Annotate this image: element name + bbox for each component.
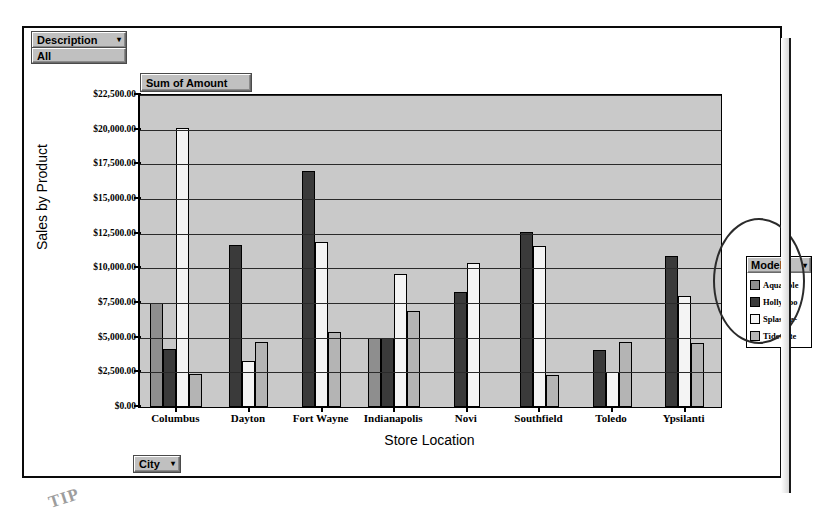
bar[interactable]	[189, 374, 202, 407]
bar[interactable]	[533, 246, 546, 407]
bar[interactable]	[619, 342, 632, 407]
legend-swatch-icon	[750, 280, 760, 290]
y-axis-tick-label: $22,500.00	[93, 89, 136, 99]
x-axis-tick-mark	[611, 406, 613, 412]
bar[interactable]	[229, 245, 242, 407]
bar-group	[140, 95, 213, 407]
x-axis-tick-mark	[466, 406, 468, 412]
x-axis-tick-mark	[321, 406, 323, 412]
gridline	[140, 199, 721, 200]
bar[interactable]	[328, 332, 341, 407]
x-axis-tick-label: Ypsilanti	[647, 412, 720, 424]
scan-artifact-text: TIP	[46, 475, 110, 512]
plot-wrapper: Sales by Product $22,500.00$20,000.00$17…	[24, 28, 780, 476]
plot-area	[139, 94, 722, 408]
bar-groups	[140, 95, 721, 407]
y-axis-tick-label: $17,500.00	[93, 158, 136, 168]
y-axis-tick-mark	[134, 370, 141, 372]
gridline	[140, 338, 721, 339]
bar[interactable]	[454, 292, 467, 407]
gridline	[140, 303, 721, 304]
gridline	[140, 95, 721, 96]
x-axis-tick-mark	[684, 406, 686, 412]
bar-group	[213, 95, 286, 407]
bar[interactable]	[546, 375, 559, 407]
page-edge-shadow	[781, 38, 789, 493]
legend-swatch-icon	[750, 314, 760, 324]
y-axis-tick-mark	[134, 128, 141, 130]
y-axis-tick-mark	[134, 301, 141, 303]
x-axis-tick-label: Indianapolis	[357, 412, 430, 424]
bar[interactable]	[315, 242, 328, 407]
legend-item[interactable]: Splash-a-	[750, 310, 809, 327]
y-axis-tick-mark	[134, 336, 141, 338]
x-axis-tick-label: Toledo	[575, 412, 648, 424]
x-axis-tick-label: Dayton	[212, 412, 285, 424]
legend-item-label: Tidewate	[763, 331, 796, 341]
legend-items: AquaSpleHollywooSplash-a-Tidewate	[747, 273, 811, 347]
y-axis-tick-mark	[134, 232, 141, 234]
y-axis-tick-labels: $22,500.00$20,000.00$17,500.00$15,000.00…	[24, 28, 136, 476]
bar[interactable]	[691, 343, 704, 407]
legend-field-model-button[interactable]: Model ▾	[747, 257, 811, 273]
legend-item[interactable]: AquaSple	[750, 276, 809, 293]
legend-item[interactable]: Tidewate	[750, 327, 809, 344]
y-axis-tick-label: $10,000.00	[93, 262, 136, 272]
y-axis-tick-label: $5,000.00	[98, 332, 136, 342]
x-axis-tick-mark	[248, 406, 250, 412]
x-axis-tick-mark	[393, 406, 395, 412]
bar-group	[358, 95, 431, 407]
y-axis-tick-mark	[134, 266, 141, 268]
pivot-chart-frame: Description ▾ All Sum of Amount Sales by…	[22, 26, 782, 478]
x-axis-tick-label: Fort Wayne	[284, 412, 357, 424]
gridline	[140, 268, 721, 269]
y-axis-tick-label: $2,500.00	[98, 366, 136, 376]
y-axis-tick-mark	[134, 197, 141, 199]
bar-group	[431, 95, 504, 407]
bar[interactable]	[163, 349, 176, 407]
bar[interactable]	[467, 263, 480, 407]
x-axis-tick-mark	[538, 406, 540, 412]
bar-group	[576, 95, 649, 407]
legend-swatch-icon	[750, 331, 760, 341]
legend: Model ▾ AquaSpleHollywooSplash-a-Tidewat…	[746, 256, 812, 348]
x-axis-title: Store Location	[139, 432, 720, 448]
y-axis-tick-mark	[134, 162, 141, 164]
x-axis-tick-labels: ColumbusDaytonFort WayneIndianapolisNovi…	[139, 412, 720, 424]
bar-group	[285, 95, 358, 407]
legend-item-label: Splash-a-	[763, 314, 797, 324]
bar[interactable]	[606, 372, 619, 407]
legend-item[interactable]: Hollywoo	[750, 293, 809, 310]
bar[interactable]	[242, 361, 255, 407]
gridline	[140, 130, 721, 131]
y-axis-tick-label: $12,500.00	[93, 228, 136, 238]
bar[interactable]	[520, 232, 533, 407]
bar-group	[503, 95, 576, 407]
y-axis-tick-mark	[134, 405, 141, 407]
legend-field-label: Model	[751, 259, 783, 271]
category-field-label: City	[139, 458, 160, 470]
bar[interactable]	[394, 274, 407, 407]
bar-group	[648, 95, 721, 407]
bar[interactable]	[665, 256, 678, 407]
bar[interactable]	[407, 311, 420, 407]
gridline	[140, 164, 721, 165]
bar[interactable]	[255, 342, 268, 407]
page-edge-line	[789, 38, 791, 493]
bar[interactable]	[150, 303, 163, 407]
legend-swatch-icon	[750, 297, 760, 307]
y-axis-tick-mark	[134, 93, 141, 95]
chevron-down-icon: ▾	[803, 261, 807, 270]
y-axis-tick-label: $15,000.00	[93, 193, 136, 203]
x-axis-tick-label: Novi	[430, 412, 503, 424]
bar[interactable]	[593, 350, 606, 407]
x-axis-tick-label: Columbus	[139, 412, 212, 424]
bar[interactable]	[678, 296, 691, 407]
gridline	[140, 234, 721, 235]
x-axis-tick-mark	[175, 406, 177, 412]
category-field-city-button[interactable]: City ▾	[134, 456, 180, 472]
chevron-down-icon: ▾	[165, 460, 175, 468]
y-axis-tick-label: $20,000.00	[93, 124, 136, 134]
y-axis-tick-label: $7,500.00	[98, 297, 136, 307]
y-axis-tick-label: $0.00	[115, 401, 136, 411]
